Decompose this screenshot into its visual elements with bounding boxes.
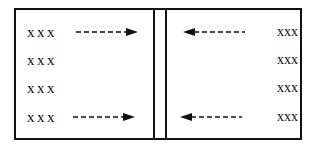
left-row-label: xxx [27,78,57,98]
left-row-label: xxx [27,22,57,42]
left-row-4: xxx [0,107,155,127]
arrow-right-icon [73,112,135,122]
left-row-2: xxx [0,50,155,70]
left-row-label: xxx [27,107,57,127]
right-row-label: xxx [277,78,298,98]
arrow-left-icon [183,27,245,37]
right-row-label: xxx [277,22,298,42]
right-row-4: xxx [167,107,298,127]
arrow-right-icon [76,27,138,37]
left-row-label: xxx [27,50,57,70]
left-row-1: xxx [0,22,155,42]
right-row-label: xxx [277,50,298,70]
right-row-3: xxx [167,78,298,98]
arrow-left-icon [180,112,242,122]
right-row-2: xxx [167,50,298,70]
left-row-3: xxx [0,78,155,98]
right-row-label: xxx [277,107,298,127]
right-row-1: xxx [167,22,298,42]
